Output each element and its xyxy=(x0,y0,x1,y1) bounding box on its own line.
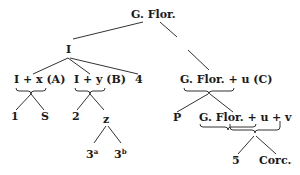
node-root: G. Flor. xyxy=(131,9,176,21)
node-C: G. Flor. + u (C) xyxy=(180,74,272,86)
node-3b-number: 3 xyxy=(114,148,122,161)
node-4: 4 xyxy=(135,74,143,86)
node-5: 5 xyxy=(232,155,240,167)
node-A: I + x (A) xyxy=(14,74,65,86)
node-P: P xyxy=(173,112,181,124)
node-2: 2 xyxy=(72,111,80,123)
stemma-lines xyxy=(0,0,300,175)
node-3b-sup: b xyxy=(122,147,127,156)
node-3a-sup: a xyxy=(94,147,99,156)
node-3b: 3b xyxy=(114,146,127,161)
node-Corc: Corc. xyxy=(259,155,291,167)
node-S: S xyxy=(41,111,49,123)
node-1: 1 xyxy=(11,111,19,123)
node-GFu: G. Flor. + u xyxy=(199,112,268,124)
node-I: I xyxy=(66,44,71,56)
node-3a-number: 3 xyxy=(86,148,94,161)
node-B: I + y (B) xyxy=(74,74,126,86)
node-plus-v: + v xyxy=(272,112,291,124)
node-3a: 3a xyxy=(86,146,98,161)
node-z: z xyxy=(103,114,109,126)
